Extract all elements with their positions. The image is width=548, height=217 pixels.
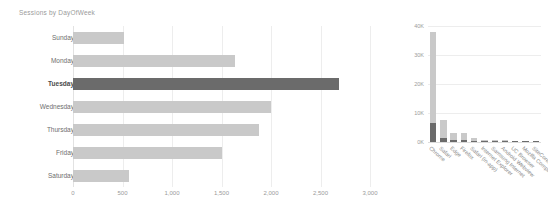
bar-row[interactable] [73, 49, 370, 72]
stacked-bar[interactable] [461, 133, 467, 142]
y-axis-tick-label: 30K [398, 52, 424, 58]
left-chart-title: Sessions by DayOfWeek [19, 9, 95, 16]
category-label: Sunday [0, 34, 74, 41]
y-gridline [428, 113, 541, 114]
bar-segment-upper[interactable] [450, 133, 456, 140]
bar[interactable] [73, 147, 222, 159]
stacked-bar[interactable] [450, 133, 456, 142]
y-gridline [428, 55, 541, 56]
y-axis-tick-label: 20K [398, 81, 424, 87]
stacked-bar[interactable] [471, 138, 477, 142]
y-axis-tick-label: 10K [398, 110, 424, 116]
stacked-bar[interactable] [440, 120, 446, 142]
x-axis-tick-label: 3,000 [362, 190, 377, 196]
bar-segment-lower[interactable] [533, 141, 539, 142]
bar-row[interactable] [73, 164, 370, 187]
x-axis-tick-label: 2,500 [313, 190, 328, 196]
category-label: Monday [0, 57, 74, 64]
y-gridline [428, 26, 541, 27]
bar-segment-upper[interactable] [461, 133, 467, 140]
bar-segment-lower[interactable] [430, 123, 436, 142]
category-label: Saturday [0, 172, 74, 179]
y-gridline [428, 142, 541, 143]
right-chart-plot-area: 0K10K20K30K40KChromeSafariEdgeFirefoxSaf… [428, 26, 541, 142]
y-axis-tick-label: 40K [398, 23, 424, 29]
stacked-bar[interactable] [430, 32, 436, 142]
bar-segment-lower[interactable] [492, 141, 498, 142]
category-label: Friday [0, 149, 74, 156]
stacked-bar[interactable] [481, 140, 487, 142]
left-chart-plot-area: 05001,0001,5002,0002,5003,000SundayMonda… [73, 26, 370, 187]
bar-segment-lower[interactable] [440, 138, 446, 142]
sessions-by-dayofweek-chart: Sessions by DayOfWeek 05001,0001,5002,00… [0, 0, 392, 217]
stacked-bar[interactable] [492, 140, 498, 142]
bar-segment-upper[interactable] [440, 120, 446, 138]
bar-row[interactable] [73, 95, 370, 118]
bar-segment-lower[interactable] [450, 140, 456, 142]
bar-segment-lower[interactable] [512, 141, 518, 142]
bar-segment-upper[interactable] [430, 32, 436, 123]
bar[interactable] [73, 55, 235, 67]
bar-segment-lower[interactable] [522, 141, 528, 142]
x-axis-tick-label: 500 [117, 190, 127, 196]
x-axis-tick-label: 1,000 [164, 190, 179, 196]
bar[interactable] [73, 170, 129, 182]
bar[interactable] [73, 101, 271, 113]
stacked-bar[interactable] [502, 140, 508, 142]
category-label: Tuesday [0, 80, 74, 87]
bar-row[interactable] [73, 26, 370, 49]
x-axis-tick-label: 0 [71, 190, 74, 196]
bar-segment-lower[interactable] [481, 141, 487, 142]
stacked-bar[interactable] [533, 141, 539, 143]
bar-segment-lower[interactable] [471, 141, 477, 142]
category-label: Thursday [0, 126, 74, 133]
bar-row[interactable] [73, 72, 370, 95]
bar-row[interactable] [73, 141, 370, 164]
stacked-bar[interactable] [512, 141, 518, 143]
bar[interactable] [73, 32, 124, 44]
x-axis-tick-label: 1,500 [214, 190, 229, 196]
y-gridline [428, 84, 541, 85]
x-gridline [370, 26, 371, 187]
bar-row[interactable] [73, 118, 370, 141]
bar-segment-lower[interactable] [502, 141, 508, 142]
pageviews-by-browser-chart: Pageviews by Browser 0K10K20K30K40KChrom… [392, 0, 548, 217]
category-label: Wednesday [0, 103, 74, 110]
bar[interactable] [73, 78, 339, 90]
x-axis-tick-label: 2,000 [263, 190, 278, 196]
bar[interactable] [73, 124, 259, 136]
stacked-bar[interactable] [522, 141, 528, 143]
y-axis-tick-label: 0K [398, 139, 424, 145]
bar-segment-lower[interactable] [461, 140, 467, 142]
